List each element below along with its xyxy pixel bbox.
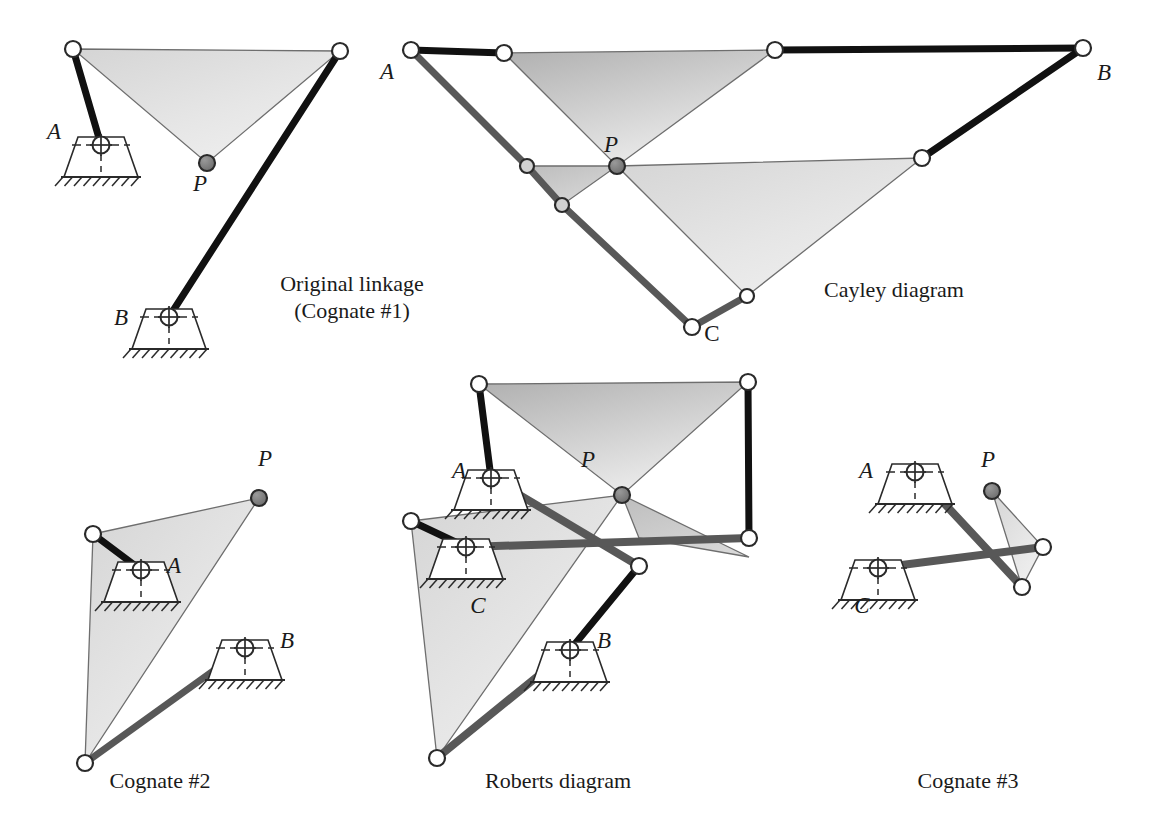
joint-B[interactable] bbox=[1075, 40, 1091, 56]
label-C: C bbox=[854, 593, 870, 618]
caption-line: Roberts diagram bbox=[485, 768, 631, 793]
joint-coupler-P[interactable] bbox=[199, 155, 215, 171]
cognate-linkage-figure: ABPOriginal linkage(Cognate #1)ABCPCayle… bbox=[0, 0, 1165, 840]
joint-lower-left[interactable] bbox=[555, 198, 569, 212]
caption-cayley-diagram: Cayley diagram bbox=[824, 277, 964, 302]
caption-roberts-diagram: Roberts diagram bbox=[485, 768, 631, 793]
label-A: A bbox=[378, 59, 395, 84]
link-right-upper[interactable] bbox=[748, 382, 749, 538]
joint-top-left[interactable] bbox=[471, 376, 487, 392]
joint-C-right[interactable] bbox=[740, 289, 754, 303]
label-P: P bbox=[257, 446, 272, 471]
label-B: B bbox=[1097, 60, 1111, 85]
caption-line: Cognate #2 bbox=[110, 768, 211, 793]
caption-line: Cognate #3 bbox=[918, 768, 1019, 793]
joint-open-1[interactable] bbox=[65, 41, 81, 57]
joint-lower-mid[interactable] bbox=[631, 558, 647, 574]
joint-open-2[interactable] bbox=[332, 43, 348, 59]
label-B: B bbox=[597, 628, 611, 653]
joint-P[interactable] bbox=[984, 483, 1000, 499]
label-P: P bbox=[192, 171, 207, 196]
label-P: P bbox=[980, 447, 995, 472]
joint-top-left[interactable] bbox=[496, 45, 512, 61]
joint-coupler-P[interactable] bbox=[251, 490, 267, 506]
joint-top-right[interactable] bbox=[767, 42, 783, 58]
label-P: P bbox=[603, 132, 618, 157]
caption-line: Cayley diagram bbox=[824, 277, 964, 302]
joint-open-1[interactable] bbox=[85, 526, 101, 542]
joint-right[interactable] bbox=[1035, 539, 1051, 555]
joint-bottom[interactable] bbox=[1014, 579, 1030, 595]
label-B: B bbox=[280, 628, 294, 653]
link-top-B[interactable] bbox=[775, 48, 1083, 50]
joint-bottom-left[interactable] bbox=[429, 750, 445, 766]
joint-left[interactable] bbox=[403, 513, 419, 529]
caption-cognate-3: Cognate #3 bbox=[918, 768, 1019, 793]
joint-P[interactable] bbox=[614, 487, 630, 503]
joint-C[interactable] bbox=[684, 319, 700, 335]
link-A-top[interactable] bbox=[411, 50, 504, 53]
joint-top-right[interactable] bbox=[740, 374, 756, 390]
joint-mid-left[interactable] bbox=[520, 159, 534, 173]
label-C: C bbox=[470, 593, 486, 618]
joint-P[interactable] bbox=[609, 158, 625, 174]
label-A: A bbox=[857, 458, 874, 483]
label-A: A bbox=[45, 119, 62, 144]
figure-canvas: ABPOriginal linkage(Cognate #1)ABCPCayle… bbox=[0, 0, 1165, 840]
joint-open-2[interactable] bbox=[77, 755, 93, 771]
caption-cognate-2: Cognate #2 bbox=[110, 768, 211, 793]
label-B: B bbox=[114, 305, 128, 330]
label-A: A bbox=[450, 458, 467, 483]
caption-line: Original linkage bbox=[280, 271, 424, 296]
label-P: P bbox=[580, 447, 595, 472]
caption-line: (Cognate #1) bbox=[294, 298, 409, 323]
joint-right-mid[interactable] bbox=[741, 530, 757, 546]
label-C: C bbox=[704, 321, 719, 346]
joint-A[interactable] bbox=[403, 42, 419, 58]
label-A: A bbox=[165, 553, 182, 578]
joint-mid-right[interactable] bbox=[914, 150, 930, 166]
